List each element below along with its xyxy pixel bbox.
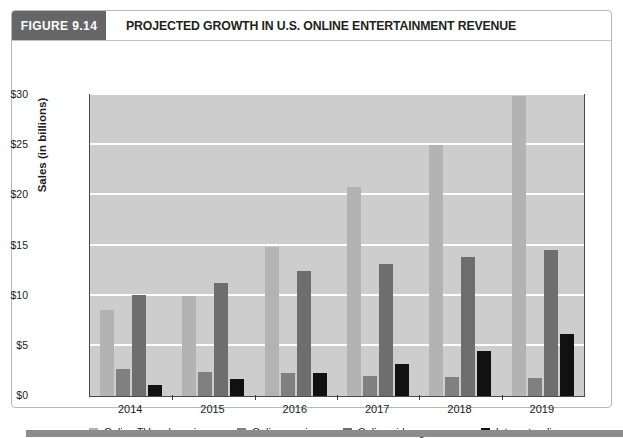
bar (477, 351, 491, 396)
bar (445, 377, 459, 396)
bar (395, 364, 409, 396)
bar (132, 295, 146, 396)
y-tick-label: $20 (0, 188, 28, 200)
bar-group (172, 95, 254, 396)
x-tick-label: 2017 (365, 403, 389, 415)
bar (363, 376, 377, 396)
bar (560, 334, 574, 396)
y-tick-label: $0 (0, 389, 28, 401)
bar-group (502, 95, 584, 396)
y-tick-label: $10 (0, 289, 28, 301)
axis-tick-mark (172, 395, 173, 400)
bar (528, 378, 542, 396)
bar (281, 373, 295, 396)
plot-area (89, 94, 585, 397)
bar-group (337, 95, 419, 396)
bar (461, 257, 475, 396)
figure-card: FIGURE 9.14 PROJECTED GROWTH IN U.S. ONL… (11, 10, 612, 408)
figure-number-label: FIGURE 9.14 (12, 11, 106, 40)
y-tick-label: $15 (0, 239, 28, 251)
x-tick-label: 2018 (447, 403, 471, 415)
chart-body: Sales (in billions) $0$5$10$15$20$25$30 … (12, 41, 611, 409)
axis-tick-mark (419, 395, 420, 400)
bar (544, 250, 558, 396)
x-tick-label: 2014 (118, 403, 142, 415)
bar (230, 379, 244, 396)
y-tick-label: $25 (0, 138, 28, 150)
x-tick-label: 2019 (530, 403, 554, 415)
bar (148, 385, 162, 396)
x-tick-label: 2016 (283, 403, 307, 415)
bar (265, 247, 279, 396)
bar-group (419, 95, 501, 396)
figure-title: PROJECTED GROWTH IN U.S. ONLINE ENTERTAI… (106, 11, 611, 40)
bar (313, 373, 327, 396)
axis-tick-mark (337, 395, 338, 400)
bar-group (255, 95, 337, 396)
bar (512, 96, 526, 396)
axis-tick-mark (255, 395, 256, 400)
bar (297, 271, 311, 396)
bar (182, 296, 196, 396)
bar (347, 187, 361, 396)
x-tick-label: 2015 (200, 403, 224, 415)
y-tick-label: $30 (0, 88, 28, 100)
y-axis-title: Sales (in billions) (36, 45, 48, 245)
bar (429, 145, 443, 396)
bar (379, 264, 393, 396)
bar (198, 372, 212, 396)
figure-header: FIGURE 9.14 PROJECTED GROWTH IN U.S. ONL… (12, 11, 611, 41)
bar (116, 369, 130, 396)
bar (100, 310, 114, 396)
axis-tick-mark (502, 395, 503, 400)
bar (214, 283, 228, 396)
footer-rule (26, 430, 623, 437)
bar-group (90, 95, 172, 396)
y-tick-label: $5 (0, 339, 28, 351)
